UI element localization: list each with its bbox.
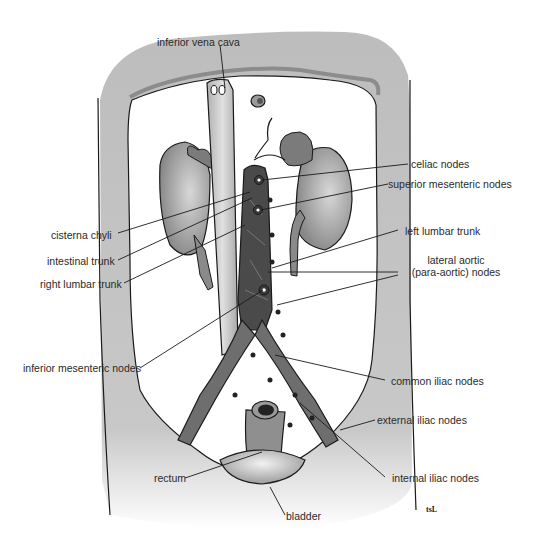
label-common-iliac-nodes: common iliac nodes (391, 375, 484, 387)
artist-signature: tsL (426, 505, 437, 514)
label-lateral-aortic-nodes: lateral aortic (para-aortic) nodes (402, 254, 510, 278)
label-inferior-mesenteric-nodes: inferior mesenteric nodes (23, 362, 141, 374)
label-intestinal-trunk: intestinal trunk (47, 255, 115, 267)
label-internal-iliac-nodes: internal iliac nodes (392, 472, 479, 484)
label-bladder: bladder (286, 510, 321, 522)
label-lateral-aortic-line2: (para-aortic) nodes (402, 266, 510, 278)
label-inferior-vena-cava: inferior vena cava (157, 36, 240, 48)
label-rectum: rectum (154, 472, 186, 484)
label-right-lumbar-trunk: right lumbar trunk (40, 278, 122, 290)
label-external-iliac-nodes: external iliac nodes (377, 414, 467, 426)
label-left-lumbar-trunk: left lumbar trunk (405, 225, 480, 237)
label-cisterna-chyli: cisterna chyli (51, 229, 112, 241)
label-celiac-nodes: celiac nodes (411, 158, 469, 170)
label-superior-mesenteric-nodes: superior mesenteric nodes (388, 178, 512, 190)
label-lateral-aortic-line1: lateral aortic (402, 254, 510, 266)
oesophagus (251, 95, 265, 107)
